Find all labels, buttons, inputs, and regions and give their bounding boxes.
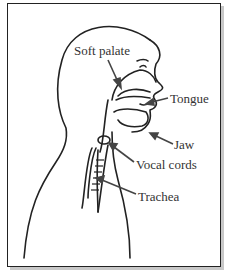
esophagus-back: [82, 148, 92, 208]
head-back-outline: [24, 27, 150, 258]
vocal-cords-arrow: [114, 147, 134, 162]
label-vocal-cords: Vocal cords: [136, 158, 197, 171]
tongue-outline: [116, 97, 150, 100]
label-jaw: Jaw: [174, 138, 194, 151]
jaw-outline: [114, 109, 148, 127]
label-tongue: Tongue: [170, 92, 209, 105]
soft-palate-line: [118, 89, 150, 96]
label-soft-palate: Soft palate: [74, 44, 130, 57]
throat-front: [112, 132, 130, 258]
head-neck-illustration: [0, 0, 230, 271]
label-trachea: Trachea: [138, 190, 179, 203]
trachea-front: [97, 150, 98, 212]
eye: [137, 60, 148, 62]
jaw-arrow: [156, 136, 173, 144]
